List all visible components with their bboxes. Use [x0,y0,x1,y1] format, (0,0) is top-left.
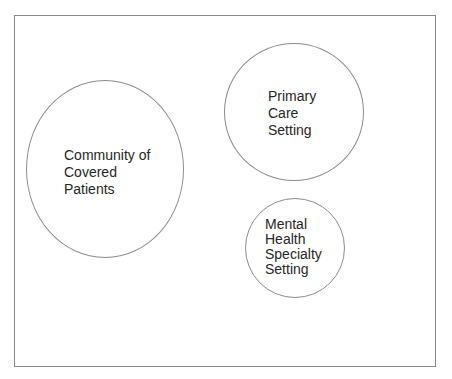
mental-health-label-line-1: Mental [265,217,322,232]
primary-care-label-line-3: Setting [268,122,316,139]
community-label-line-1: Community of [64,147,150,164]
mental-health-label-line-3: Specialty [265,247,322,262]
community-label-line-2: Covered [64,164,150,181]
primary-care-label: Primary Care Setting [268,88,316,139]
primary-care-label-line-1: Primary [268,88,316,105]
community-label: Community of Covered Patients [64,147,150,198]
mental-health-label-line-2: Health [265,232,322,247]
primary-care-label-line-2: Care [268,105,316,122]
community-label-line-3: Patients [64,181,150,198]
mental-health-label-line-4: Setting [265,262,322,277]
mental-health-label: Mental Health Specialty Setting [265,217,322,277]
